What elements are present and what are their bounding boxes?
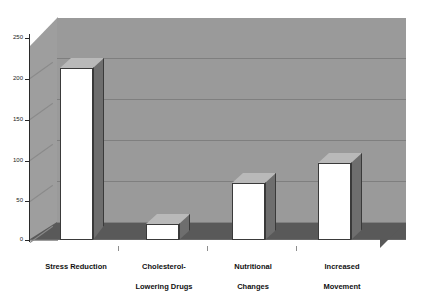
bar-side-face [351,153,362,240]
y-axis-line [29,34,30,242]
category-separator-3 [296,246,297,251]
y-tick-label-250: 250 [13,34,23,40]
y-tick-label-50: 50 [16,197,23,203]
y-tick-150 [25,120,30,121]
bar-front-face [318,163,351,240]
y-tick-200 [25,79,30,80]
y-tick-50 [25,201,30,202]
y-tick-label-200-wrap: 200 [0,75,23,83]
y-tick-100 [25,161,30,162]
y-tick-label-200: 200 [13,75,23,81]
category-label-line2: Changes [208,282,298,292]
y-tick-label-150: 150 [13,116,23,122]
gridline-150 [57,140,406,141]
bar-front-face [60,68,93,240]
category-label-increased-movement: Increased Movement [296,252,388,295]
bar-side-face [265,173,276,240]
category-label-stress-reduction: Stress Reduction [28,252,124,292]
y-tick-label-100-wrap: 100 [0,157,23,165]
bar-stress-reduction[interactable] [60,58,103,240]
bar-increased-movement[interactable] [318,153,361,240]
y-tick-250 [25,38,30,39]
category-label-line1: Cholesterol- [118,262,210,272]
category-separator-1 [118,246,119,251]
y-tick-label-50-wrap: 50 [0,197,23,205]
category-label-line2: Movement [296,282,388,292]
bar-nutritional-changes[interactable] [232,173,275,240]
category-label-line1: Stress Reduction [28,262,124,272]
category-label-cholesterol-lowering-drugs: Cholesterol- Lowering Drugs [118,252,210,295]
category-label-line1: Nutritional [208,262,298,272]
y-tick-label-250-wrap: 250 [0,34,23,42]
bar-front-face [146,224,179,240]
gridline-250 [57,58,406,59]
category-label-line1: Increased [296,262,388,272]
category-label-line2: Lowering Drugs [118,282,210,292]
bar-side-face [93,58,104,240]
gridline-200 [57,99,406,100]
y-tick-label-150-wrap: 150 [0,116,23,124]
bar-front-face [232,183,265,240]
category-separator-2 [207,246,208,251]
y-tick-label-0-wrap: 0 [0,236,23,244]
bar-cholesterol-lowering-drugs[interactable] [146,214,189,240]
left-wall-panel [29,17,58,241]
y-tick-label-0: 0 [20,236,23,242]
category-label-nutritional-changes: Nutritional Changes [208,252,298,295]
y-tick-label-100: 100 [13,157,23,163]
y-tick-0 [25,240,30,241]
